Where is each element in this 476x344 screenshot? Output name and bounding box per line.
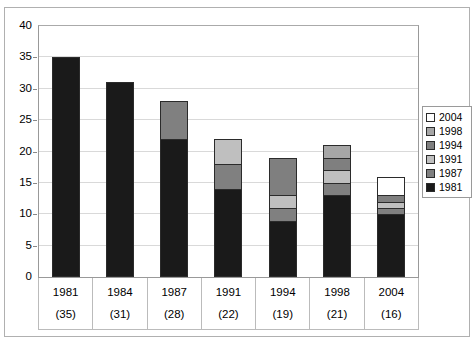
y-tick-mark <box>33 246 37 247</box>
bar-segment[interactable] <box>106 82 134 277</box>
bar-group <box>256 26 310 277</box>
bar-segment[interactable] <box>269 158 297 196</box>
bar-stack[interactable] <box>214 139 242 277</box>
bar-segment[interactable] <box>214 139 242 164</box>
chart-frame: 0510152025303540 1981(35)1984(31)1987(28… <box>4 7 470 337</box>
bar-segment[interactable] <box>323 158 351 171</box>
y-tick-mark <box>33 152 37 153</box>
x-axis-cell: 1994(19) <box>256 278 310 329</box>
plot-inner <box>39 26 418 277</box>
bar-group <box>310 26 364 277</box>
legend-item[interactable]: 2004 <box>426 110 469 124</box>
x-axis-category-label: 2004 <box>379 287 405 299</box>
chart-legend: 200419981994199119871981 <box>422 106 472 198</box>
bar-group <box>201 26 255 277</box>
x-axis-category-label: 1987 <box>161 287 187 299</box>
x-axis-category-label: 1984 <box>107 287 133 299</box>
legend-label: 1998 <box>439 126 462 137</box>
legend-swatch-icon <box>426 141 435 150</box>
bar-segment[interactable] <box>323 145 351 158</box>
y-tick-label: 35 <box>19 52 32 64</box>
x-axis-cell: 1998(21) <box>310 278 364 329</box>
bar-group <box>39 26 93 277</box>
x-axis-cell: 2004(16) <box>365 278 418 329</box>
bar-stack[interactable] <box>160 101 188 277</box>
bar-segment[interactable] <box>377 214 405 277</box>
y-tick-label: 40 <box>19 20 32 32</box>
bar-group <box>364 26 418 277</box>
bar-stack[interactable] <box>269 158 297 277</box>
y-tick-mark <box>33 183 37 184</box>
legend-label: 1994 <box>439 140 462 151</box>
bar-segment[interactable] <box>269 208 297 221</box>
cropped-title-text <box>0 0 476 6</box>
bar-group <box>93 26 147 277</box>
x-axis-cell: 1987(28) <box>148 278 202 329</box>
y-tick-mark <box>33 57 37 58</box>
legend-label: 1991 <box>439 154 462 165</box>
plot-area <box>38 25 419 278</box>
legend-swatch-icon <box>426 169 435 178</box>
y-tick-mark <box>33 89 37 90</box>
y-tick-label: 0 <box>26 271 32 283</box>
y-tick-mark <box>33 120 37 121</box>
x-axis-category-label: 1991 <box>216 287 242 299</box>
y-tick-label: 25 <box>19 114 32 126</box>
legend-item[interactable]: 1998 <box>426 124 469 138</box>
bar-segment[interactable] <box>323 195 351 277</box>
bar-segment[interactable] <box>323 170 351 183</box>
x-axis-count-label: (16) <box>381 309 401 321</box>
x-axis-count-label: (31) <box>110 309 130 321</box>
x-axis-count-label: (35) <box>55 309 75 321</box>
y-tick-label: 15 <box>19 177 32 189</box>
legend-swatch-icon <box>426 155 435 164</box>
legend-item[interactable]: 1987 <box>426 166 469 180</box>
legend-swatch-icon <box>426 183 435 192</box>
legend-swatch-icon <box>426 113 435 122</box>
bar-segment[interactable] <box>160 139 188 277</box>
x-axis-count-label: (22) <box>218 309 238 321</box>
bar-segment[interactable] <box>269 195 297 208</box>
bar-segment[interactable] <box>377 177 405 196</box>
bar-group <box>147 26 201 277</box>
x-axis-category-label: 1998 <box>324 287 350 299</box>
legend-item[interactable]: 1991 <box>426 152 469 166</box>
bar-segment[interactable] <box>214 164 242 189</box>
bar-segment[interactable] <box>160 101 188 139</box>
x-axis-count-label: (21) <box>327 309 347 321</box>
legend-label: 1981 <box>439 182 462 193</box>
y-tick-label: 30 <box>19 83 32 95</box>
bar-stack[interactable] <box>52 57 80 277</box>
legend-label: 1987 <box>439 168 462 179</box>
y-tick-mark <box>33 214 37 215</box>
legend-swatch-icon <box>426 127 435 136</box>
y-tick-label: 5 <box>26 240 32 252</box>
legend-item[interactable]: 1981 <box>426 180 469 194</box>
x-axis-cell: 1984(31) <box>93 278 147 329</box>
bar-segment[interactable] <box>323 183 351 196</box>
legend-label: 2004 <box>439 112 462 123</box>
x-axis-cell: 1991(22) <box>202 278 256 329</box>
x-axis-category-label: 1994 <box>270 287 296 299</box>
bar-segment[interactable] <box>269 221 297 277</box>
legend-item[interactable]: 1994 <box>426 138 469 152</box>
x-axis-count-label: (28) <box>164 309 184 321</box>
x-axis-count-label: (19) <box>273 309 293 321</box>
bar-segment[interactable] <box>52 57 80 277</box>
x-axis-category-label: 1981 <box>53 287 79 299</box>
x-axis-labels: 1981(35)1984(31)1987(28)1991(22)1994(19)… <box>38 278 419 330</box>
y-axis: 0510152025303540 <box>5 25 35 278</box>
y-tick-label: 20 <box>19 146 32 158</box>
bar-stack[interactable] <box>377 177 405 277</box>
bar-stack[interactable] <box>323 145 351 277</box>
x-axis-cell: 1981(35) <box>39 278 93 329</box>
y-tick-label: 10 <box>19 209 32 221</box>
bar-segment[interactable] <box>214 189 242 277</box>
bar-stack[interactable] <box>106 82 134 277</box>
